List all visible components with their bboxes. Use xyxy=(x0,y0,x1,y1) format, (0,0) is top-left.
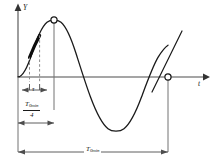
quarter-period-dimension-line xyxy=(18,121,54,126)
full-dim-arrow-right xyxy=(161,149,168,154)
full-period-subscript: 0min xyxy=(90,148,99,153)
tau-dim-arrow-left xyxy=(22,88,29,93)
quarter-period-label: T0min 4 xyxy=(23,101,40,119)
waveform-figure: Y t τ T0min 4 T0min xyxy=(0,0,211,168)
axis-group xyxy=(15,4,210,81)
quarter-dim-arrow-left xyxy=(18,121,25,126)
full-dim-arrow-left xyxy=(18,149,25,154)
tau-dim-arrow-right xyxy=(41,88,48,93)
y-axis-label: Y xyxy=(23,4,27,12)
full-period-label: T0min xyxy=(84,146,101,154)
x-axis-label: t xyxy=(198,80,200,88)
curve-group xyxy=(18,20,182,131)
waveform-plot xyxy=(0,0,211,168)
highlighted-rising-segment xyxy=(30,35,40,57)
quarter-dim-arrow-right xyxy=(48,121,55,126)
zero-crossing-marker xyxy=(165,74,171,80)
peak-marker xyxy=(51,17,57,23)
quarter-period-denominator: 4 xyxy=(23,112,40,120)
quarter-period-subscript: 0min xyxy=(29,103,38,108)
x-axis-arrowhead xyxy=(203,74,210,81)
tau-label: τ xyxy=(32,86,35,93)
quarter-period-numerator: T0min xyxy=(23,101,40,110)
y-axis-arrowhead xyxy=(15,4,22,12)
